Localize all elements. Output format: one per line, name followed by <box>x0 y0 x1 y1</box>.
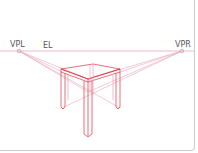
vpl-point <box>17 49 21 53</box>
vpl-label: VPL <box>10 41 25 49</box>
construction-lines <box>19 51 182 108</box>
el-label: EL <box>43 42 53 50</box>
perspective-diagram <box>0 0 198 153</box>
vpr-point <box>180 49 184 53</box>
vpr-label: VPR <box>175 41 191 49</box>
table-drawing <box>61 64 120 137</box>
